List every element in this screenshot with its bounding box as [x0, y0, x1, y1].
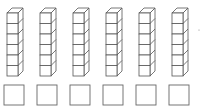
unit-cube	[7, 13, 18, 24]
unit-cube	[172, 55, 183, 66]
unit-cube	[172, 34, 183, 45]
unit-cube	[7, 66, 18, 77]
unit-cube	[7, 24, 18, 35]
answer-box[interactable]	[103, 85, 123, 105]
unit-cube	[73, 13, 84, 24]
answer-box[interactable]	[169, 85, 189, 105]
unit-cube	[172, 66, 183, 77]
diagram-canvas	[0, 0, 201, 110]
unit-cube	[40, 55, 51, 66]
cube-rod	[172, 8, 188, 76]
unit-cube	[73, 24, 84, 35]
cube-rod	[7, 8, 23, 76]
unit-cube	[172, 24, 183, 35]
unit-cube	[73, 55, 84, 66]
unit-cube	[139, 55, 150, 66]
unit-cube	[40, 66, 51, 77]
cube-rod	[40, 8, 56, 76]
answer-box[interactable]	[4, 85, 24, 105]
unit-cube	[73, 45, 84, 56]
stray-dot	[198, 29, 199, 30]
unit-cube	[73, 34, 84, 45]
answer-box[interactable]	[37, 85, 57, 105]
unit-cube	[106, 45, 117, 56]
unit-cube	[172, 13, 183, 24]
cube-rod	[73, 8, 89, 76]
unit-cube	[139, 45, 150, 56]
unit-cube	[106, 24, 117, 35]
unit-cube	[106, 55, 117, 66]
cube-rod	[139, 8, 155, 76]
unit-cube	[139, 34, 150, 45]
unit-cube	[40, 24, 51, 35]
unit-cube	[40, 34, 51, 45]
unit-cube	[7, 55, 18, 66]
unit-cube	[73, 66, 84, 77]
unit-cube	[7, 34, 18, 45]
cube-rod	[106, 8, 122, 76]
unit-cube	[106, 66, 117, 77]
unit-cube	[106, 13, 117, 24]
unit-cube	[139, 24, 150, 35]
unit-cube	[7, 45, 18, 56]
answer-box[interactable]	[136, 85, 156, 105]
unit-cube	[106, 34, 117, 45]
unit-cube	[139, 66, 150, 77]
unit-cube	[139, 13, 150, 24]
unit-cube	[40, 45, 51, 56]
answer-box[interactable]	[70, 85, 90, 105]
unit-cube	[40, 13, 51, 24]
unit-cube	[172, 45, 183, 56]
